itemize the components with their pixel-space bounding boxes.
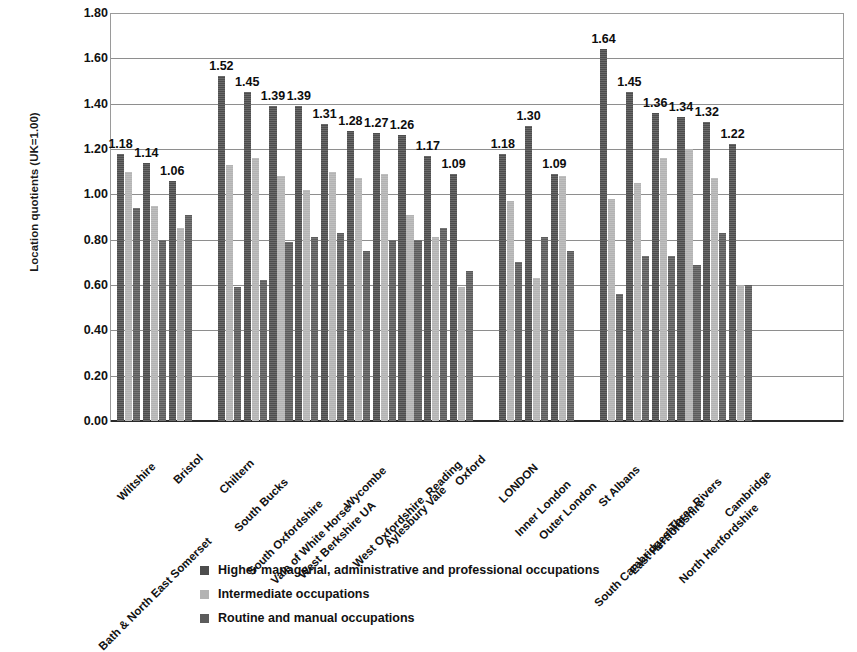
bar: [642, 256, 649, 421]
bar: [398, 135, 405, 421]
bar: [133, 208, 140, 421]
y-tick-label: 0.80: [62, 233, 108, 246]
x-category-label: LONDON: [496, 461, 540, 505]
bar-value-label: 1.64: [588, 33, 620, 46]
legend-swatch-icon: [200, 614, 209, 623]
bar: [177, 228, 184, 421]
x-category-label: Bristol: [171, 452, 205, 486]
bar: [551, 174, 558, 421]
bar: [244, 92, 251, 421]
bar: [677, 117, 684, 421]
bar-value-label: 1.52: [205, 60, 237, 73]
bar: [311, 237, 318, 421]
legend-item: Intermediate occupations: [200, 582, 840, 606]
legend-label: Routine and manual occupations: [218, 611, 415, 625]
bar-value-label: 1.26: [386, 119, 418, 132]
bar: [143, 163, 150, 421]
bar: [541, 237, 548, 421]
bar: [567, 251, 574, 421]
bar: [499, 154, 506, 421]
y-tick-label: 1.80: [62, 7, 108, 20]
bar: [125, 172, 132, 421]
y-tick-label: 1.40: [62, 97, 108, 110]
x-category-label: Bath & North East Somerset: [97, 535, 214, 652]
bar: [329, 172, 336, 421]
bar: [151, 206, 158, 421]
bar: [381, 174, 388, 421]
bar: [440, 228, 447, 421]
bar: [711, 178, 718, 421]
bar: [355, 178, 362, 421]
x-category-label: Wiltshire: [115, 460, 158, 503]
bar: [337, 233, 344, 421]
legend-swatch-icon: [200, 566, 209, 575]
bar: [745, 285, 752, 421]
bar: [450, 174, 457, 421]
bar: [303, 190, 310, 421]
bar-value-label: 1.30: [513, 110, 545, 123]
bar-value-label: 1.39: [283, 90, 315, 103]
bar: [703, 122, 710, 421]
bar: [515, 262, 522, 421]
bar: [525, 126, 532, 421]
legend-label: Higher managerial, administrative and pr…: [218, 563, 599, 577]
bar: [169, 181, 176, 421]
bar: [693, 265, 700, 421]
bar: [634, 183, 641, 421]
bar: [466, 271, 473, 421]
bar: [226, 165, 233, 421]
bar: [424, 156, 431, 421]
bar: [389, 240, 396, 421]
bar-value-label: 1.06: [156, 165, 188, 178]
x-category-label: Aylesbury Vale: [382, 484, 448, 550]
bar: [600, 49, 607, 421]
gridline: [111, 13, 843, 14]
bar-value-label: 1.09: [538, 158, 570, 171]
bar: [295, 106, 302, 421]
bar-value-label: 1.18: [487, 138, 519, 151]
x-category-label: Chiltern: [217, 457, 256, 496]
legend-label: Intermediate occupations: [218, 587, 369, 601]
bar: [729, 144, 736, 421]
bar: [668, 256, 675, 421]
bar: [660, 158, 667, 421]
bar: [719, 233, 726, 421]
y-axis-title: Location quotients (UK=1.00): [28, 62, 40, 322]
y-tick-label: 1.00: [62, 188, 108, 201]
bar-value-label: 1.09: [438, 158, 470, 171]
bar: [507, 201, 514, 421]
bar: [685, 149, 692, 421]
bar: [159, 240, 166, 421]
bar: [234, 287, 241, 421]
legend-swatch-icon: [200, 590, 209, 599]
chart-legend: Higher managerial, administrative and pr…: [200, 558, 840, 630]
bar: [626, 92, 633, 421]
bar: [458, 287, 465, 421]
bar: [269, 106, 276, 421]
legend-item: Higher managerial, administrative and pr…: [200, 558, 840, 582]
bar: [533, 278, 540, 421]
bar: [559, 176, 566, 421]
bar-value-label: 1.45: [231, 76, 263, 89]
bar: [406, 215, 413, 421]
bar: [252, 158, 259, 421]
bar-value-label: 1.32: [691, 106, 723, 119]
bar: [218, 76, 225, 421]
bar-value-label: 1.22: [717, 128, 749, 141]
y-tick-label: 0.20: [62, 369, 108, 382]
bar: [347, 131, 354, 421]
y-tick-label: 0.60: [62, 279, 108, 292]
legend-item: Routine and manual occupations: [200, 606, 840, 630]
bar: [185, 215, 192, 421]
y-tick-label: 1.20: [62, 143, 108, 156]
bar: [321, 124, 328, 421]
bar: [373, 133, 380, 421]
x-axis-category-labels: WiltshireBath & North East SomersetBrist…: [0, 424, 857, 544]
bar-value-label: 1.14: [130, 147, 162, 160]
bar: [117, 154, 124, 421]
bar: [260, 280, 267, 421]
bar: [652, 113, 659, 421]
x-category-label: South Bucks: [232, 476, 290, 534]
y-axis-line: [110, 13, 111, 422]
bar-value-label: 1.45: [613, 76, 645, 89]
